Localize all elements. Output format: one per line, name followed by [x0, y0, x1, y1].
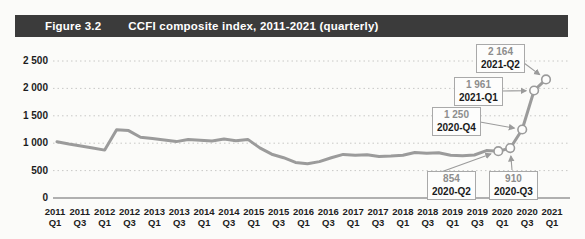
annotation-arrow	[511, 156, 512, 170]
annotation-date: 2020-Q2	[432, 186, 471, 199]
annotation-callout: 9102020-Q3	[489, 171, 538, 200]
annotation-callout: 1 9612021-Q1	[454, 77, 503, 106]
figure-panel: Figure 3.2 CCFI composite index, 2011-20…	[0, 0, 585, 239]
ccfi-line-chart	[0, 0, 585, 239]
annotation-arrow	[524, 63, 540, 75]
annotation-callout: 8542020-Q2	[427, 171, 476, 200]
annotation-callout: 1 2502020-Q4	[432, 107, 481, 136]
x-tick-quarter: Q1	[537, 218, 567, 229]
annotation-date: 2020-Q4	[437, 122, 476, 135]
data-point-marker	[506, 144, 515, 153]
x-tick-label: 2021Q1	[537, 207, 567, 228]
y-tick-label: 2 500	[8, 55, 48, 66]
annotation-value: 2 164	[481, 46, 520, 59]
y-tick-label: 500	[8, 165, 48, 176]
data-point-marker	[542, 75, 551, 84]
x-tick-year: 2021	[537, 207, 567, 218]
annotation-callout: 2 1642021-Q2	[476, 44, 525, 73]
annotation-value: 1 250	[437, 109, 476, 122]
annotation-date: 2021-Q1	[459, 92, 498, 105]
y-tick-label: 1 000	[8, 137, 48, 148]
data-point-marker	[530, 86, 539, 95]
annotation-value: 1 961	[459, 79, 498, 92]
y-tick-label: 2 000	[8, 82, 48, 93]
annotation-date: 2020-Q3	[494, 186, 533, 199]
data-point-marker	[518, 125, 527, 134]
y-tick-label: 0	[8, 192, 48, 203]
annotation-date: 2021-Q2	[481, 59, 520, 72]
annotation-value: 854	[432, 173, 471, 186]
data-point-marker	[494, 147, 503, 156]
annotation-value: 910	[494, 173, 533, 186]
y-tick-label: 1 500	[8, 110, 48, 121]
annotation-arrow	[480, 122, 514, 128]
